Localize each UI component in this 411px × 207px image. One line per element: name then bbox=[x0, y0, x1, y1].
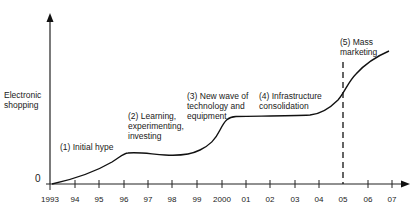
tick-label: 96 bbox=[120, 195, 129, 204]
tick-label: 98 bbox=[168, 195, 177, 204]
tick-label: 97 bbox=[144, 195, 153, 204]
phase-4-label: (4) Infrastructure consolidation bbox=[259, 91, 322, 111]
phase-3-label: (3) New wave of technology and equipment bbox=[187, 91, 248, 121]
y-axis-label: Electronic shopping bbox=[4, 90, 41, 110]
tick-label: 94 bbox=[71, 195, 80, 204]
tick-label: 06 bbox=[364, 195, 373, 204]
x-axis-arrow-icon bbox=[401, 181, 410, 188]
phase-5-label: (5) Mass marketing bbox=[340, 37, 377, 57]
tick-label: 2000 bbox=[213, 195, 231, 204]
y-origin-label: 0 bbox=[35, 174, 41, 184]
tick-label: 95 bbox=[95, 195, 104, 204]
tick-label: 1993 bbox=[41, 195, 59, 204]
tick-label: 03 bbox=[291, 195, 300, 204]
y-axis-arrow-icon bbox=[47, 13, 54, 22]
phase-2-label: (2) Learning, experimenting, investing bbox=[128, 111, 184, 141]
tick-label: 99 bbox=[193, 195, 202, 204]
tick-label: 04 bbox=[315, 195, 324, 204]
tick-label: 05 bbox=[339, 195, 348, 204]
x-ticks bbox=[50, 180, 392, 190]
tick-label: 02 bbox=[266, 195, 275, 204]
tick-label: 07 bbox=[388, 195, 397, 204]
tick-label: 01 bbox=[242, 195, 251, 204]
phase-1-label: (1) Initial hype bbox=[60, 142, 113, 152]
